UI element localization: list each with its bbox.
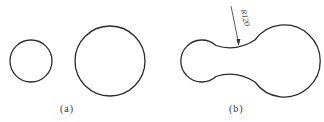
panel-b-top-tangent-arc bbox=[216, 40, 255, 48]
panel-b-large-circle bbox=[255, 25, 320, 97]
dimension-leader bbox=[231, 6, 241, 46]
dimension-text: R120 bbox=[239, 8, 252, 27]
panel-a-caption: (a) bbox=[60, 103, 74, 114]
panel-a-large-circle bbox=[75, 26, 145, 96]
panel-b-bottom-tangent-arc bbox=[216, 74, 255, 82]
panel-a-small-circle bbox=[10, 40, 52, 82]
leader-line bbox=[231, 6, 239, 43]
panel-b-caption: (b) bbox=[229, 103, 244, 114]
panel-b-small-circle bbox=[181, 40, 216, 82]
figure-canvas: R120 bbox=[0, 0, 324, 122]
panel-a bbox=[10, 26, 145, 96]
arrowhead-icon bbox=[237, 39, 241, 46]
panel-b bbox=[181, 25, 320, 97]
